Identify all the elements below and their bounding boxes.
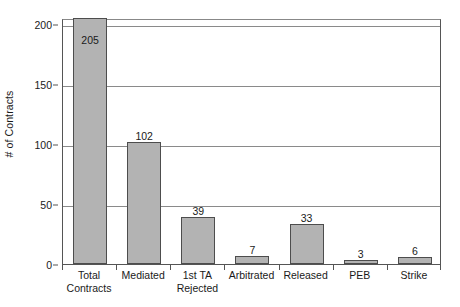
bar-value-label: 33 xyxy=(301,212,313,224)
x-category-label: 1st TARejected xyxy=(170,269,224,294)
x-category-label: Arbitrated xyxy=(224,269,278,282)
bar-slot: 33 xyxy=(280,20,334,264)
y-tick-label-150: 150 xyxy=(34,79,52,91)
y-axis-title: # of Contracts xyxy=(0,0,18,248)
bar[interactable] xyxy=(344,260,378,264)
x-category-label-line1: Strike xyxy=(400,269,427,281)
bar[interactable] xyxy=(73,18,107,264)
y-tick-label-0: 0 xyxy=(46,259,52,271)
x-category-label-line1: 1st TA xyxy=(183,269,212,281)
x-category-label: Released xyxy=(279,269,333,282)
bar-slot: 7 xyxy=(225,20,279,264)
y-tick-label-200: 200 xyxy=(34,19,52,31)
x-axis-category-labels: TotalContractsMediated1st TARejectedArbi… xyxy=(62,269,441,307)
y-tick-mark-0 xyxy=(53,265,58,266)
x-category-label-line1: Total xyxy=(78,269,100,281)
bar-value-label: 3 xyxy=(358,248,364,260)
x-category-label: TotalContracts xyxy=(62,269,116,294)
y-axis-tick-labels: 050100150200 xyxy=(18,0,58,307)
bar-slot: 3 xyxy=(334,20,388,264)
bars-layer: 2051023973336 xyxy=(63,20,440,264)
y-tick-label-50: 50 xyxy=(40,199,52,211)
x-category-label-line2: Rejected xyxy=(170,282,224,295)
bar-slot: 102 xyxy=(117,20,171,264)
y-tick-mark-100 xyxy=(53,145,58,146)
y-tick-mark-150 xyxy=(53,85,58,86)
bar-slot: 39 xyxy=(171,20,225,264)
x-category-label-line1: Arbitrated xyxy=(229,269,275,281)
bar[interactable] xyxy=(290,224,324,264)
y-tick-label-100: 100 xyxy=(34,139,52,151)
bar[interactable] xyxy=(398,257,432,264)
bar-chart: # of Contracts 050100150200 205102397333… xyxy=(0,0,460,307)
bar[interactable] xyxy=(127,142,161,264)
y-axis-title-text: # of Contracts xyxy=(3,91,15,158)
bar-value-label: 205 xyxy=(81,34,99,46)
y-tick-mark-200 xyxy=(53,25,58,26)
bar-slot: 205 xyxy=(63,20,117,264)
x-category-label-line1: PEB xyxy=(349,269,370,281)
x-category-label-line1: Released xyxy=(283,269,327,281)
bar[interactable] xyxy=(235,256,269,264)
bar[interactable] xyxy=(181,217,215,264)
x-category-label: Strike xyxy=(387,269,441,282)
bar-value-label: 39 xyxy=(193,205,205,217)
bar-value-label: 7 xyxy=(250,244,256,256)
x-category-label: PEB xyxy=(333,269,387,282)
bar-value-label: 6 xyxy=(412,245,418,257)
bar-slot: 6 xyxy=(388,20,442,264)
y-tick-mark-50 xyxy=(53,205,58,206)
x-category-label-line1: Mediated xyxy=(122,269,165,281)
x-category-label-line2: Contracts xyxy=(62,282,116,295)
x-category-label: Mediated xyxy=(116,269,170,282)
plot-area: 2051023973336 xyxy=(62,19,441,265)
bar-value-label: 102 xyxy=(135,130,153,142)
